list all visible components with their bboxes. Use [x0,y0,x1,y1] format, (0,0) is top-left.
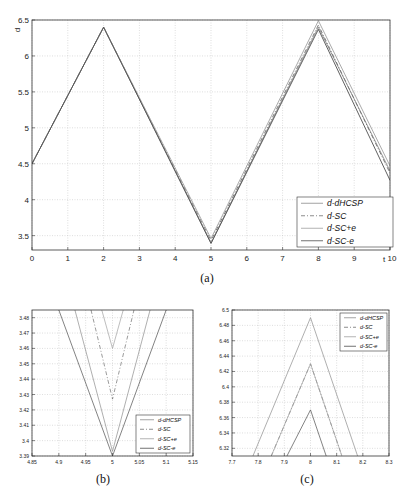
svg-text:0: 0 [30,254,35,263]
svg-text:3.47: 3.47 [19,330,29,336]
svg-text:6.5: 6.5 [18,16,30,25]
svg-text:4.9: 4.9 [55,459,62,465]
series-d-sc [271,364,342,456]
svg-text:3.5: 3.5 [18,232,30,241]
svg-text:4.85: 4.85 [27,459,37,465]
svg-text:8.1: 8.1 [333,459,340,465]
legend-item: d-SC [327,211,347,221]
svg-text:4.5: 4.5 [18,160,30,169]
svg-text:3: 3 [137,254,142,263]
svg-text:1: 1 [66,254,71,263]
svg-text:3.45: 3.45 [19,361,29,367]
svg-text:6: 6 [25,52,30,61]
svg-text:6.32: 6.32 [219,445,229,451]
svg-text:5.15: 5.15 [188,459,198,465]
figure: 0123456789t103.544.555.566.5dd-dHCSPd-SC… [0,0,414,504]
svg-text:6.34: 6.34 [219,430,229,436]
svg-text:4.95: 4.95 [81,459,91,465]
svg-text:3.44: 3.44 [19,376,29,382]
caption-c: (c) [300,472,313,486]
svg-text:3.39: 3.39 [19,453,29,459]
chart-panel-a: 0123456789t103.544.555.566.5dd-dHCSPd-SC… [13,16,397,285]
svg-text:10: 10 [388,254,397,263]
svg-text:6.38: 6.38 [219,399,229,405]
legend-item: d-SC+e [327,223,356,233]
svg-text:8: 8 [309,459,312,465]
x-axis-label: t [383,255,386,264]
svg-text:8.3: 8.3 [386,459,393,465]
svg-text:5.5: 5.5 [18,88,30,97]
legend-item: d-SC-e [327,236,354,246]
legend-item: d-SC [360,324,373,330]
svg-text:3.43: 3.43 [19,392,29,398]
svg-text:9: 9 [352,254,357,263]
legend-item: d-dHCSP [327,198,363,208]
svg-text:6.5: 6.5 [222,307,229,313]
series-d-sc-e [271,364,342,456]
svg-text:3.46: 3.46 [19,345,29,351]
caption-b: (b) [96,472,110,486]
svg-text:5: 5 [209,254,214,263]
svg-text:6.42: 6.42 [219,368,229,374]
svg-text:3.41: 3.41 [19,422,29,428]
svg-text:6: 6 [245,254,250,263]
svg-text:7.7: 7.7 [229,459,236,465]
svg-text:5: 5 [111,459,114,465]
svg-text:8: 8 [316,254,321,263]
legend: d-dHCSPd-SCd-SC+ed-SC-e [136,415,190,453]
svg-text:3.42: 3.42 [19,407,29,413]
legend-item: d-SC-e [360,343,377,349]
svg-text:4: 4 [173,254,178,263]
svg-text:6.4: 6.4 [222,384,229,390]
svg-text:3.4: 3.4 [22,438,29,444]
svg-text:7: 7 [280,254,285,263]
legend-item: d-SC-e [158,445,175,451]
caption-a: (a) [200,271,213,285]
legend-item: d-dHCSP [158,417,182,423]
svg-text:5.05: 5.05 [134,459,144,465]
svg-text:2: 2 [101,254,106,263]
chart-panel-b: 4.854.94.9555.055.15.153.393.43.413.423.… [19,310,198,486]
legend: d-dHCSPd-SCd-SC+ed-SC-e [340,313,387,351]
legend-item: d-SC+e [158,436,177,442]
legend-item: d-SC+e [360,334,379,340]
svg-text:3.48: 3.48 [19,315,29,321]
legend: d-dHCSPd-SCd-SC+ed-SC-e [297,197,393,247]
svg-text:4: 4 [25,196,30,205]
svg-text:6.48: 6.48 [219,322,229,328]
legend-item: d-dHCSP [360,315,384,321]
svg-text:7.8: 7.8 [255,459,262,465]
svg-text:5.1: 5.1 [163,459,170,465]
svg-text:7.9: 7.9 [281,459,288,465]
y-axis-label: d [13,28,22,32]
svg-text:5: 5 [25,124,30,133]
svg-text:6.46: 6.46 [219,338,229,344]
svg-text:8.2: 8.2 [359,459,366,465]
svg-text:6.44: 6.44 [219,353,229,359]
svg-text:6.36: 6.36 [219,415,229,421]
chart-panel-c: 7.77.87.988.18.28.36.326.346.366.386.46.… [219,307,392,486]
legend-item: d-SC [158,426,171,432]
